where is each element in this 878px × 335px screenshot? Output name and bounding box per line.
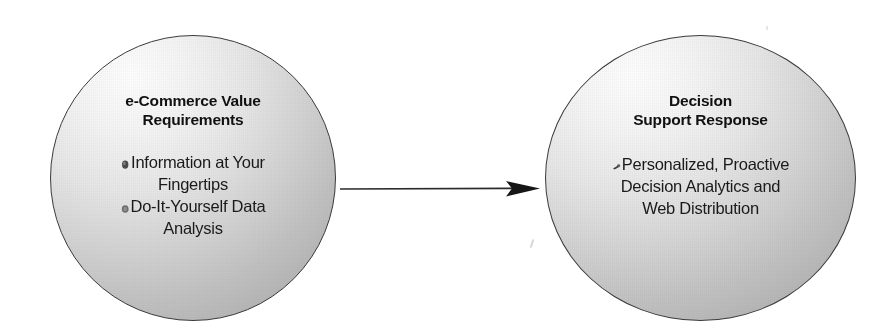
node-bullet-list: Information at Your Fingertips Do-It-You…	[51, 151, 335, 239]
node-bullet-list: Personalized, Proactive Decision Analyti…	[546, 153, 855, 219]
blob-bullet-icon	[121, 204, 130, 214]
node-title: Decision Support Response	[633, 91, 768, 129]
list-item-label: Information at Your Fingertips	[131, 153, 265, 193]
node-e-commerce-value-requirements[interactable]: e-Commerce Value Requirements Informatio…	[50, 35, 336, 321]
blob-bullet-icon	[612, 162, 621, 172]
list-item-label: Personalized, Proactive Decision Analyti…	[621, 155, 790, 217]
diagram-canvas: e-Commerce Value Requirements Informatio…	[0, 0, 878, 335]
list-item: Do-It-Yourself Data Analysis	[51, 195, 335, 239]
blob-bullet-icon	[121, 160, 130, 170]
list-item: Personalized, Proactive Decision Analyti…	[546, 153, 855, 219]
list-item: Information at Your Fingertips	[51, 151, 335, 195]
scan-artifact-speck	[530, 239, 535, 248]
list-item-label: Do-It-Yourself Data Analysis	[131, 197, 266, 237]
node-decision-support-response[interactable]: Decision Support Response Personalized, …	[545, 35, 856, 321]
arrow-right-icon	[338, 168, 546, 210]
node-title: e-Commerce Value Requirements	[125, 91, 261, 129]
scan-artifact-speck	[766, 26, 768, 30]
